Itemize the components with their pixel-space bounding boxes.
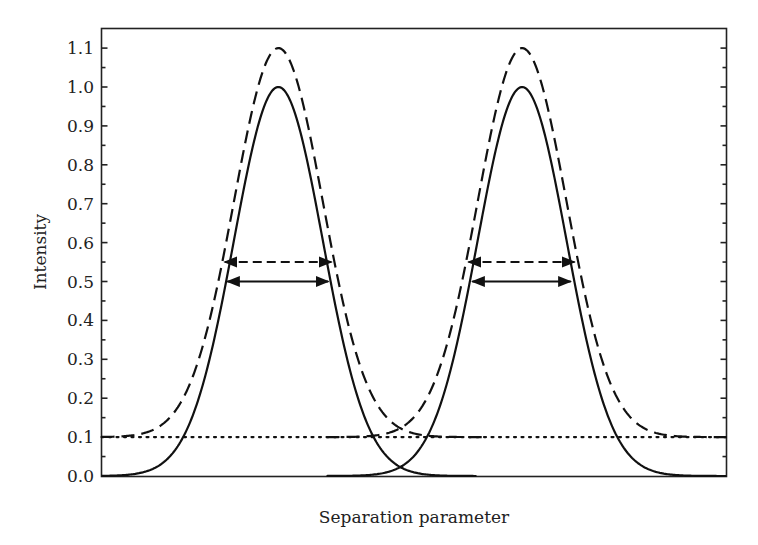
y-tick-label: 0.2: [67, 388, 94, 408]
plot-area: 0.00.10.20.30.40.50.60.70.80.91.01.1: [67, 29, 727, 487]
y-tick-label: 1.1: [67, 38, 94, 58]
x-axis-label: Separation parameter: [319, 507, 510, 527]
y-tick-label: 0.6: [67, 233, 94, 253]
y-tick-label: 0.3: [67, 349, 94, 369]
y-axis-label: Intensity: [30, 214, 50, 290]
series-peak-2-dashed: [327, 48, 727, 437]
y-tick-label: 0.5: [67, 272, 94, 292]
fwhm-arrows: [225, 262, 575, 281]
y-tick-label: 0.7: [67, 194, 94, 214]
y-axis-tick-labels: 0.00.10.20.30.40.50.60.70.80.91.01.1: [67, 38, 94, 486]
y-tick-label: 1.0: [67, 77, 94, 97]
y-tick-label: 0.4: [67, 310, 94, 330]
y-tick-label: 0.8: [67, 155, 94, 175]
series-layer: [102, 48, 727, 476]
y-tick-label: 0.0: [67, 466, 94, 486]
y-tick-label: 0.1: [67, 427, 94, 447]
y-tick-label: 0.9: [67, 116, 94, 136]
chart: 0.00.10.20.30.40.50.60.70.80.91.01.1 Sep…: [0, 0, 758, 545]
